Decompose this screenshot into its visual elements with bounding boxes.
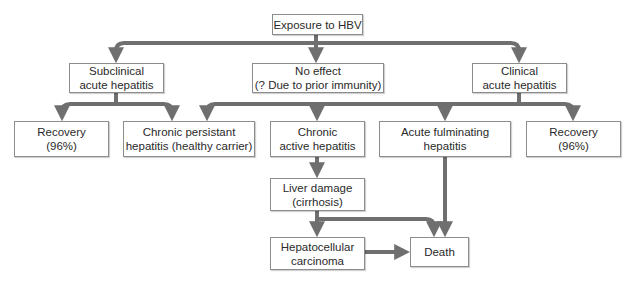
node-chronic-active-hepatitis: Chronic active hepatitis — [270, 121, 365, 157]
edge-exposure-clinical — [316, 43, 519, 56]
node-label: Recovery — [37, 125, 86, 139]
node-label: acute hepatitis — [482, 78, 556, 92]
node-label: No effect — [295, 64, 341, 78]
node-death: Death — [410, 237, 469, 267]
edge-liver-death — [317, 219, 434, 230]
edge-exposure-subclinical — [116, 43, 316, 56]
node-label: Clinical — [501, 64, 538, 78]
node-label: Subclinical — [89, 64, 144, 78]
edge-subclinical-recovery — [62, 104, 116, 114]
node-label: (96%) — [46, 139, 77, 153]
node-label: carcinoma — [291, 254, 344, 268]
node-label: Recovery — [549, 125, 598, 139]
node-hepatocellular-carcinoma: Hepatocellular carcinoma — [270, 237, 365, 270]
node-label: (cirrhosis) — [292, 195, 342, 209]
node-label: Liver damage — [283, 181, 353, 195]
node-label: hepatitis — [424, 139, 467, 153]
node-label: (? Due to prior immunity) — [255, 78, 382, 92]
node-recovery-right: Recovery (96%) — [526, 121, 621, 157]
node-label: Death — [424, 245, 455, 259]
node-recovery-left: Recovery (96%) — [14, 121, 109, 157]
node-label: Exposure to HBV — [273, 18, 361, 32]
node-clinical-acute-hepatitis: Clinical acute hepatitis — [472, 63, 567, 93]
node-liver-damage: Liver damage (cirrhosis) — [270, 178, 365, 211]
node-label: Acute fulminating — [401, 125, 489, 139]
node-label: acute hepatitis — [79, 78, 153, 92]
node-exposure-to-hbv: Exposure to HBV — [272, 14, 363, 35]
edge-subclinical-chronic-persistent — [116, 104, 172, 114]
node-subclinical-acute-hepatitis: Subclinical acute hepatitis — [69, 63, 164, 93]
hbv-outcome-flowchart: Exposure to HBV Subclinical acute hepati… — [0, 0, 637, 284]
node-label: active hepatitis — [279, 139, 355, 153]
edge-clinical-recovery — [519, 104, 573, 114]
node-label: (96%) — [558, 139, 589, 153]
node-label: hepatitis (healthy carrier) — [126, 139, 253, 153]
node-acute-fulminating-hepatitis: Acute fulminating hepatitis — [379, 121, 511, 157]
node-label: Chronic — [298, 125, 338, 139]
node-label: Chronic persistant — [143, 125, 236, 139]
edge-clinical-chronic-persistent — [207, 104, 519, 114]
node-no-effect: No effect (? Due to prior immunity) — [252, 63, 384, 93]
node-label: Hepatocellular — [281, 240, 355, 254]
node-chronic-persistent-hepatitis: Chronic persistant hepatitis (healthy ca… — [123, 121, 255, 157]
